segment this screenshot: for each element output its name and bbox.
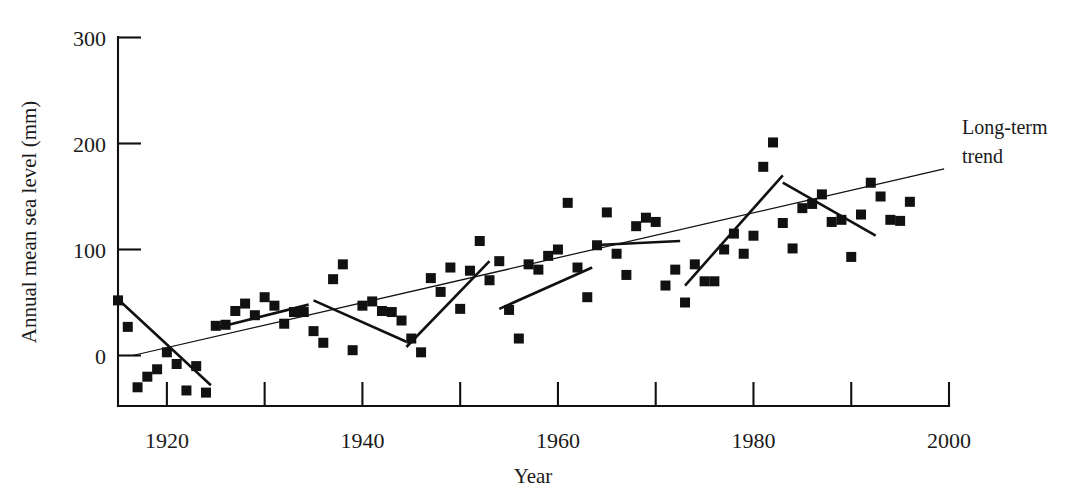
x-axis-ticks	[167, 382, 949, 406]
data-point	[739, 249, 749, 259]
segment-1963-1972	[592, 241, 680, 245]
x-tick-label-2000: 2000	[927, 428, 971, 453]
data-point	[485, 275, 495, 285]
data-point	[191, 361, 201, 371]
data-point	[260, 292, 270, 302]
data-point	[123, 322, 133, 332]
x-tick-label-1980: 1980	[731, 428, 775, 453]
data-point	[436, 287, 446, 297]
data-point	[397, 316, 407, 326]
data-point	[230, 306, 240, 316]
data-point	[338, 259, 348, 269]
data-point	[895, 216, 905, 226]
data-point	[152, 364, 162, 374]
x-axis-title: Year	[514, 464, 553, 488]
data-point	[309, 326, 319, 336]
data-point	[328, 274, 338, 284]
x-tick-label-1940: 1940	[340, 428, 384, 453]
x-axis-group: 19201940196019802000	[118, 382, 971, 453]
data-point	[885, 215, 895, 225]
data-point	[621, 270, 631, 280]
long-term-trend-label-line1: Long-term	[962, 116, 1048, 139]
y-tick-label-300: 300	[73, 26, 106, 51]
data-point	[406, 334, 416, 344]
data-point	[778, 218, 788, 228]
data-point	[416, 347, 426, 357]
chart-figure: 0100200300 19201940196019802000 Long-ter…	[0, 0, 1068, 504]
data-point	[651, 217, 661, 227]
data-point	[299, 307, 309, 317]
data-point	[142, 372, 152, 382]
data-point	[768, 137, 778, 147]
data-point	[445, 263, 455, 273]
data-point	[797, 203, 807, 213]
data-point	[807, 199, 817, 209]
data-point	[113, 295, 123, 305]
data-point	[250, 310, 260, 320]
data-point	[788, 243, 798, 253]
data-point	[602, 207, 612, 217]
data-point	[524, 259, 534, 269]
data-point	[572, 263, 582, 273]
x-tick-label-1960: 1960	[536, 428, 580, 453]
data-point	[367, 296, 377, 306]
segment-1944-1953	[406, 261, 489, 347]
data-point	[289, 307, 299, 317]
data-point	[817, 189, 827, 199]
data-point	[533, 265, 543, 275]
sea-level-scatter-chart: 0100200300 19201940196019802000 Long-ter…	[0, 0, 1068, 504]
data-point	[504, 305, 514, 315]
data-point	[348, 345, 358, 355]
data-point	[905, 197, 915, 207]
segment-1916-1924	[118, 299, 211, 385]
data-point	[553, 245, 563, 255]
y-axis-ticks	[118, 38, 141, 356]
data-point	[660, 281, 670, 291]
data-point	[866, 178, 876, 188]
data-point	[729, 229, 739, 239]
y-axis-tick-labels: 0100200300	[73, 26, 106, 369]
data-point	[827, 217, 837, 227]
data-point	[846, 252, 856, 262]
data-point	[856, 210, 866, 220]
data-point	[631, 221, 641, 231]
data-point	[426, 273, 436, 283]
data-point	[592, 240, 602, 250]
data-point	[612, 249, 622, 259]
data-point	[700, 276, 710, 286]
x-tick-label-1920: 1920	[145, 428, 189, 453]
data-point	[240, 299, 250, 309]
data-point	[719, 245, 729, 255]
segment-1983-1992	[783, 183, 876, 236]
data-point	[582, 292, 592, 302]
data-point	[455, 304, 465, 314]
data-point	[494, 256, 504, 266]
data-point	[172, 359, 182, 369]
data-point	[836, 215, 846, 225]
x-axis-tick-labels: 19201940196019802000	[145, 428, 971, 453]
data-point	[201, 388, 211, 398]
data-point	[318, 338, 328, 348]
data-point	[269, 301, 279, 311]
data-point	[465, 266, 475, 276]
data-point	[181, 385, 191, 395]
y-tick-label-100: 100	[73, 238, 106, 263]
data-point	[221, 320, 231, 330]
y-tick-label-200: 200	[73, 132, 106, 157]
data-point	[690, 259, 700, 269]
y-tick-label-0: 0	[95, 344, 106, 369]
data-point	[670, 265, 680, 275]
trend-segments-group	[118, 175, 876, 385]
data-point	[475, 236, 485, 246]
data-point	[876, 192, 886, 202]
data-point	[279, 319, 289, 329]
data-point	[680, 298, 690, 308]
data-point	[133, 382, 143, 392]
data-point	[641, 213, 651, 223]
data-point	[709, 276, 719, 286]
segment-1954-1963	[499, 268, 592, 309]
data-point	[543, 251, 553, 261]
data-point	[162, 347, 172, 357]
data-point	[758, 162, 768, 172]
long-term-trend-label-line2: trend	[962, 145, 1003, 167]
